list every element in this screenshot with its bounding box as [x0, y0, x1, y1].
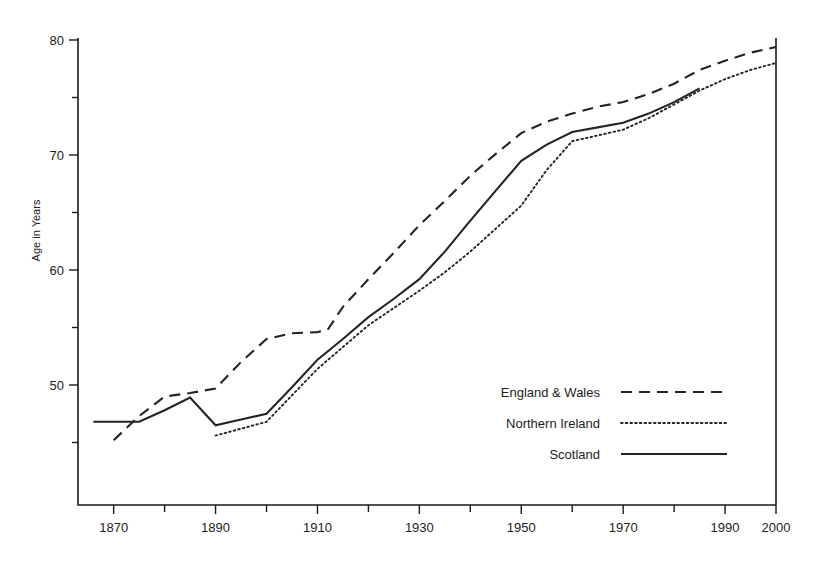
x-axis-tick-label: 1950 — [507, 520, 536, 535]
series-layer — [93, 47, 776, 440]
legend-label: Northern Ireland — [506, 416, 600, 431]
series-line-scotland — [93, 88, 699, 425]
y-axis-tick-label: 50 — [50, 378, 64, 393]
series-line-england-wales — [114, 47, 776, 440]
y-axis-tick-label: 60 — [50, 263, 64, 278]
y-axis-tick-label: 80 — [50, 33, 64, 48]
y-axis-tick-label: 70 — [50, 148, 64, 163]
x-axis-tick-label: 1870 — [99, 520, 128, 535]
legend-label: Scotland — [549, 447, 600, 462]
x-axis-tick-label: 1990 — [711, 520, 740, 535]
line-chart: 5060708018701890191019301950197019902000… — [0, 0, 834, 572]
x-axis-tick-label: 1910 — [303, 520, 332, 535]
x-axis-tick-label: 2000 — [762, 520, 791, 535]
x-axis-tick-label: 1930 — [405, 520, 434, 535]
labels-layer: 5060708018701890191019301950197019902000… — [30, 33, 790, 535]
y-axis-title: Age in Years — [30, 199, 42, 261]
legend-layer: England & WalesNorthern IrelandScotland — [501, 385, 727, 462]
chart-canvas: 5060708018701890191019301950197019902000… — [0, 0, 834, 572]
x-axis-tick-label: 1890 — [201, 520, 230, 535]
legend-label: England & Wales — [501, 385, 601, 400]
x-axis-tick-label: 1970 — [609, 520, 638, 535]
